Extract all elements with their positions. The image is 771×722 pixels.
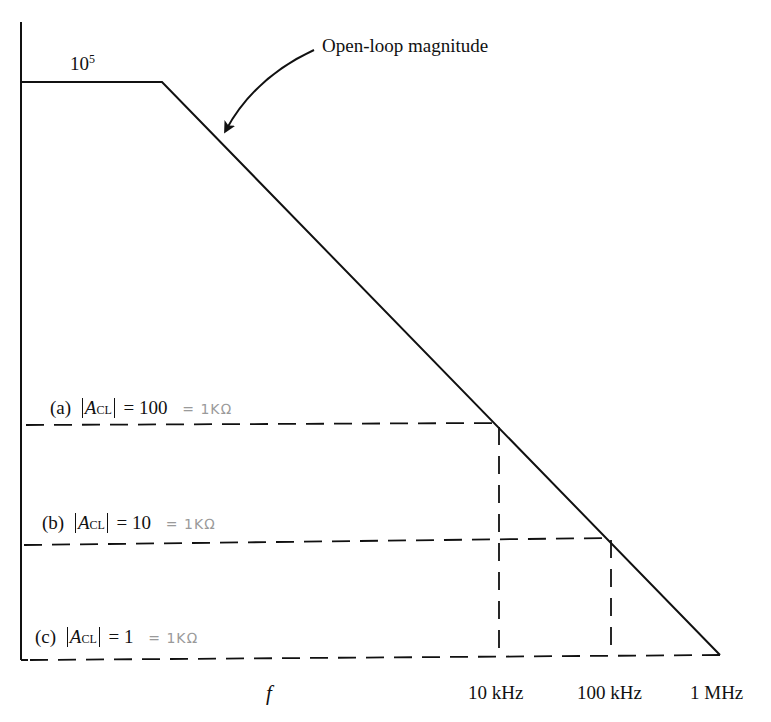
acl-symbol: ACL (82, 398, 115, 418)
case-c-label: (c) ACL = 1 = 1KΩ (35, 627, 198, 647)
tick-1mhz: 1 MHz (690, 683, 743, 702)
dc-gain-exponent: 5 (89, 52, 95, 66)
equals-sign: = (117, 512, 128, 533)
case-tag: (c) (35, 626, 56, 647)
arrow-icon (226, 50, 314, 130)
acl-letter: A (78, 512, 90, 533)
x-axis-label: f (266, 683, 272, 704)
acl-subscript: CL (96, 403, 111, 417)
tick-10khz: 10 kHz (468, 683, 523, 702)
case-a-label: (a) ACL = 100 = 1KΩ (50, 398, 232, 418)
acl-symbol: ACL (67, 627, 100, 647)
dc-gain-base: 10 (70, 53, 89, 74)
handwritten-note: = 1KΩ (148, 630, 198, 646)
acl-letter: A (85, 397, 97, 418)
case-tag: (b) (42, 512, 64, 533)
open-loop-label: Open-loop magnitude (322, 36, 488, 55)
acl-subscript: CL (90, 518, 105, 532)
acl-letter: A (70, 626, 82, 647)
gain-value: 1 (124, 626, 134, 647)
bode-plot (0, 0, 771, 722)
equals-sign: = (124, 397, 135, 418)
gain-100-line (26, 423, 499, 425)
gain-1-line (30, 655, 720, 660)
case-b-label: (b) ACL = 10 = 1KΩ (42, 513, 216, 533)
acl-symbol: ACL (75, 513, 108, 533)
gain-10-line (24, 538, 610, 545)
acl-subscript: CL (81, 632, 96, 646)
open-loop-curve (21, 82, 720, 655)
equals-sign: = (109, 626, 120, 647)
case-tag: (a) (50, 397, 71, 418)
gain-value: 100 (139, 397, 168, 418)
gain-value: 10 (132, 512, 151, 533)
handwritten-note: = 1KΩ (166, 516, 216, 532)
dc-gain-label: 105 (70, 53, 95, 73)
tick-100khz: 100 kHz (577, 683, 642, 702)
handwritten-note: = 1KΩ (182, 401, 232, 417)
